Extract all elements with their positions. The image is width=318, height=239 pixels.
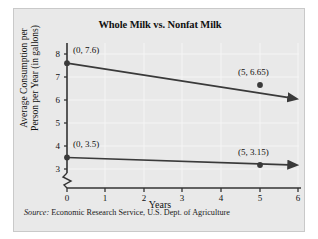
point-label-whole-milk-5: (5, 6.65) (238, 67, 269, 77)
y-tick-label-5: 5 (48, 118, 60, 128)
chart-figure: Whole Milk vs. Nonfat Milk Average Consu… (13, 8, 305, 232)
y-tick-label-4: 4 (48, 141, 60, 151)
point-label-nonfat-milk-0: (0, 3.5) (73, 139, 99, 149)
data-point-nonfat-milk-5 (257, 162, 263, 168)
source-label: Source: (24, 208, 49, 217)
source-text: Economic Research Service, U.S. Dept. of… (49, 208, 230, 217)
source-note: Source: Economic Research Service, U.S. … (24, 208, 230, 217)
point-label-whole-milk-0: (0, 7.6) (73, 45, 99, 55)
y-tick-label-8: 8 (48, 49, 60, 59)
y-tick-label-7: 7 (48, 72, 60, 82)
data-point-whole-milk-5 (257, 82, 263, 88)
y-tick-label-3: 3 (48, 164, 60, 174)
y-tick-label-6: 6 (48, 95, 60, 105)
y-axis-break-symbol (63, 173, 71, 188)
point-label-nonfat-milk-5: (5, 3.15) (238, 147, 269, 157)
series-line-nonfat-milk (67, 158, 289, 165)
data-point-whole-milk-0 (64, 60, 70, 66)
data-point-nonfat-milk-0 (64, 155, 70, 161)
